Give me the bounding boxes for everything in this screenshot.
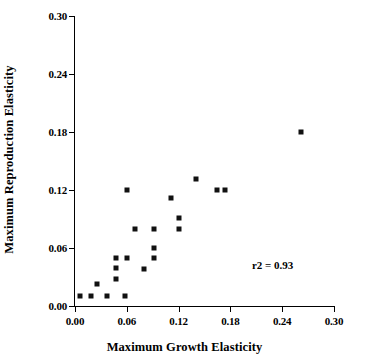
plot-area: 0.000.060.120.180.240.300.000.060.120.18… <box>74 16 334 307</box>
y-tick-label: 0.00 <box>49 300 67 312</box>
y-axis-title-text: Maximum Reproduction Elasticity <box>2 65 17 253</box>
y-tick-label: 0.30 <box>49 10 67 22</box>
x-axis-title: Maximum Growth Elasticity <box>0 340 369 355</box>
x-tick-mark <box>282 306 283 312</box>
x-tick-label: 0.18 <box>221 315 239 327</box>
scatter-plot-figure: Maximum Reproduction Elasticity 0.000.06… <box>0 0 369 364</box>
data-point <box>151 246 156 251</box>
y-axis-title: Maximum Reproduction Elasticity <box>0 0 20 318</box>
data-point <box>151 226 156 231</box>
data-point <box>123 294 128 299</box>
x-tick-mark <box>230 306 231 312</box>
data-point <box>193 177 198 182</box>
y-tick-label: 0.24 <box>49 68 67 80</box>
data-point <box>223 188 228 193</box>
y-tick-label: 0.18 <box>49 126 67 138</box>
data-point <box>299 130 304 135</box>
data-point <box>94 281 99 286</box>
x-tick-label: 0.06 <box>118 315 136 327</box>
y-tick-label: 0.12 <box>49 184 67 196</box>
x-tick-label: 0.00 <box>66 315 84 327</box>
y-tick-mark <box>69 132 75 133</box>
data-point <box>168 195 173 200</box>
y-tick-label: 0.06 <box>49 242 67 254</box>
data-point <box>176 226 181 231</box>
y-tick-mark <box>69 190 75 191</box>
x-tick-label: 0.24 <box>273 315 291 327</box>
x-tick-mark <box>334 306 335 312</box>
y-tick-mark <box>69 16 75 17</box>
data-point <box>124 255 129 260</box>
data-point <box>151 255 156 260</box>
data-point <box>114 266 119 271</box>
x-tick-mark <box>179 306 180 312</box>
x-tick-label: 0.30 <box>325 315 343 327</box>
r-squared-annotation: r2 = 0.93 <box>252 259 293 271</box>
data-point <box>104 294 109 299</box>
x-tick-label: 0.12 <box>169 315 187 327</box>
data-point <box>78 294 83 299</box>
data-point <box>214 188 219 193</box>
data-point <box>124 188 129 193</box>
data-point <box>114 276 119 281</box>
x-tick-mark <box>127 306 128 312</box>
data-point <box>88 294 93 299</box>
data-point <box>142 267 147 272</box>
data-point <box>133 226 138 231</box>
data-point <box>176 216 181 221</box>
y-tick-mark <box>69 248 75 249</box>
data-point <box>114 255 119 260</box>
y-tick-mark <box>69 74 75 75</box>
x-tick-mark <box>75 306 76 312</box>
